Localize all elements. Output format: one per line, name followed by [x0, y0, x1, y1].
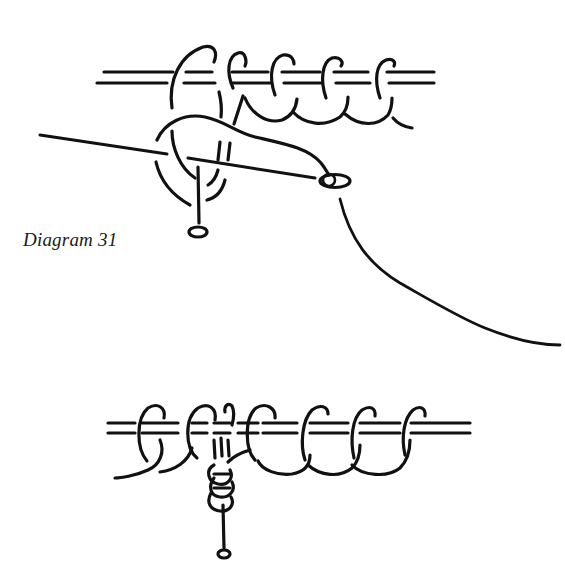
stitch-loops	[115, 404, 425, 478]
double-rail-strands	[97, 72, 434, 83]
needle	[40, 135, 350, 188]
double-rail-strands	[108, 423, 470, 433]
stitch-loops	[171, 46, 412, 128]
pin-icon	[218, 505, 230, 558]
diagram-32: Diagram 32	[0, 380, 565, 588]
yarn-loop	[156, 116, 329, 205]
diagram-32-illustration	[0, 380, 565, 588]
diagram-31-illustration	[0, 0, 565, 300]
wrapped-yarn-coil	[209, 465, 234, 511]
diagram-31: Diagram 31	[0, 0, 565, 300]
diagram-31-caption: Diagram 31	[23, 229, 117, 251]
yarn-tail	[340, 199, 560, 345]
